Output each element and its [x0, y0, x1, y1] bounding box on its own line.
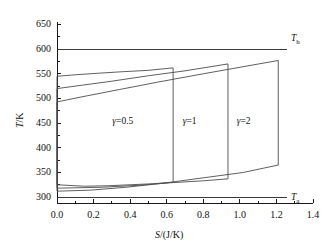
reference-label-th: Th [291, 33, 300, 46]
reference-label-ta: Ta [291, 192, 299, 205]
y-tick-label: 450 [21, 117, 51, 128]
curve-label-gamma-1: γ=1 [183, 116, 197, 126]
x-tick-label: 0.8 [188, 209, 218, 220]
y-tick-label: 550 [21, 68, 51, 79]
x-tick-label: 0.4 [115, 209, 145, 220]
y-tick-label: 350 [21, 166, 51, 177]
cycle-curve-gamma-1 [57, 64, 228, 188]
x-axis-title: S/(J/K) [155, 229, 183, 240]
x-tick-label: 1.0 [225, 209, 255, 220]
curve-label-gamma-0-5: γ=0.5 [112, 116, 133, 126]
x-tick-label: 1.4 [298, 209, 327, 220]
x-tick-label: 0.2 [79, 209, 109, 220]
y-tick-label: 600 [21, 43, 51, 54]
y-tick-label: 300 [21, 191, 51, 202]
cycle-curve-gamma-0-5 [57, 68, 173, 186]
chart-figure: T/K S/(J/K) Th Ta 3003504004505005506006… [0, 0, 327, 251]
x-tick-label: 0.6 [152, 209, 182, 220]
y-tick-label: 500 [21, 92, 51, 103]
x-tick-label: 1.2 [261, 209, 291, 220]
y-tick-label: 650 [21, 18, 51, 29]
y-tick-label: 400 [21, 142, 51, 153]
curve-label-gamma-2: γ=2 [237, 116, 251, 126]
x-tick-label: 0.0 [42, 209, 72, 220]
